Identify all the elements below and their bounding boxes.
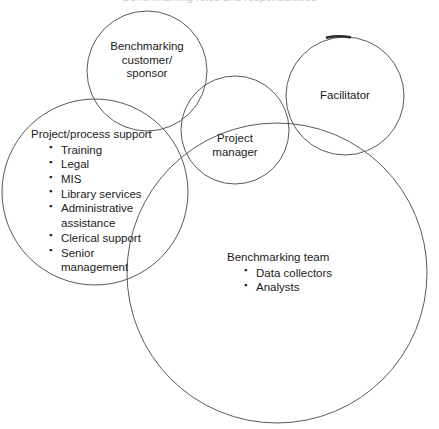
label-facilitator: Facilitator [320, 89, 370, 103]
list-item: Clerical support [49, 231, 152, 246]
list-item: Data collectors [244, 266, 332, 281]
label-project-process-support: Project/process support Training Legal M… [31, 128, 152, 275]
support-heading: Project/process support [31, 128, 152, 142]
label-benchmarking-team: Benchmarking team Data collectors Analys… [227, 251, 332, 295]
customer-label-line-1: Benchmarking [110, 40, 184, 54]
list-item: Analysts [244, 280, 332, 295]
list-item: Library services [49, 187, 152, 202]
label-project-manager: Project manager [212, 132, 257, 159]
venn-diagram-figure: Benchmarking roles and responsibilities … [0, 0, 439, 429]
circle-project-manager [181, 76, 289, 184]
customer-label-line-2: customer/ [110, 54, 184, 68]
facilitator-label-line-1: Facilitator [320, 89, 370, 103]
facilitator-arc-ink-mark [327, 36, 350, 37]
list-item-continuation: management [49, 260, 152, 275]
list-item: Training [49, 143, 152, 158]
list-item: Senior [49, 246, 152, 261]
customer-label-line-3: sponsor [110, 67, 184, 81]
label-benchmarking-customer-sponsor: Benchmarking customer/ sponsor [110, 40, 184, 81]
list-item: Administrative [49, 201, 152, 216]
team-item-list: Data collectors Analysts [244, 266, 332, 295]
project-manager-label-line-2: manager [212, 146, 257, 160]
list-item: MIS [49, 172, 152, 187]
project-manager-label-line-1: Project [212, 132, 257, 146]
list-item-continuation: assistance [49, 216, 152, 231]
list-item: Legal [49, 157, 152, 172]
team-heading: Benchmarking team [227, 251, 332, 265]
support-item-list: Training Legal MIS Library services Admi… [49, 143, 152, 275]
